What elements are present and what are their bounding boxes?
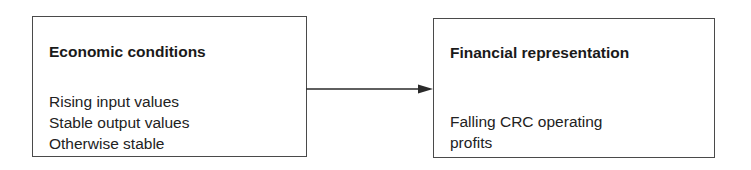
representation-item: Falling CRC operating bbox=[450, 111, 603, 132]
financial-representation-title: Financial representation bbox=[450, 44, 629, 62]
arrow-connector bbox=[306, 82, 434, 96]
condition-item: Stable output values bbox=[49, 112, 189, 133]
arrowhead-icon bbox=[418, 85, 433, 94]
representation-item: profits bbox=[450, 132, 603, 153]
economic-conditions-list: Rising input values Stable output values… bbox=[49, 91, 189, 154]
economic-conditions-box: Economic conditions Rising input values … bbox=[32, 16, 307, 157]
condition-item: Otherwise stable bbox=[49, 133, 189, 154]
economic-conditions-title: Economic conditions bbox=[49, 43, 206, 61]
condition-item: Rising input values bbox=[49, 91, 189, 112]
financial-representation-box: Financial representation Falling CRC ope… bbox=[433, 18, 715, 158]
financial-representation-list: Falling CRC operating profits bbox=[450, 111, 603, 153]
